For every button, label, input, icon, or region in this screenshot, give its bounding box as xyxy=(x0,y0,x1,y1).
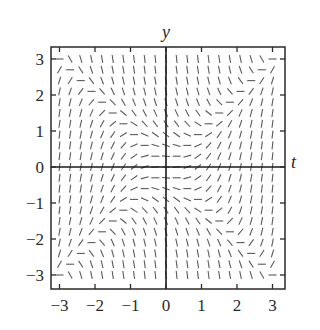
slope-segment xyxy=(218,239,221,246)
slope-segment xyxy=(272,141,273,149)
slope-segment xyxy=(141,177,149,179)
slope-segment xyxy=(80,109,82,117)
slope-segment xyxy=(173,144,181,146)
slope-segment xyxy=(122,239,125,247)
slope-segment xyxy=(133,249,135,257)
slope-segment xyxy=(176,77,177,85)
slope-segment xyxy=(69,239,72,247)
slope-segment xyxy=(142,121,147,127)
slope-segment xyxy=(186,98,189,106)
slope-segment xyxy=(187,249,188,257)
slope-segment xyxy=(261,174,262,182)
slope-segment xyxy=(240,152,242,160)
slope-segment xyxy=(154,228,156,236)
slope-segment xyxy=(154,88,156,96)
slope-segment xyxy=(101,260,103,268)
slope-segment xyxy=(176,249,177,257)
slope-segment xyxy=(121,186,126,192)
slope-segment xyxy=(227,110,233,116)
y-tick-label: −2 xyxy=(26,230,44,249)
slope-segment xyxy=(154,239,156,247)
slope-segment xyxy=(131,208,138,212)
slope-segment xyxy=(111,153,114,160)
slope-segment xyxy=(155,260,156,268)
slope-segment xyxy=(112,77,114,85)
slope-segment xyxy=(133,228,136,235)
slope-segment xyxy=(229,260,231,268)
slope-segment xyxy=(111,239,114,246)
slope-segment xyxy=(141,155,149,157)
slope-segment xyxy=(183,177,191,179)
slope-segment xyxy=(152,132,158,137)
slope-segment xyxy=(176,66,177,74)
slope-segment xyxy=(261,217,263,225)
slope-segment xyxy=(68,272,72,279)
slope-segment xyxy=(229,174,231,182)
slope-segment xyxy=(112,55,113,63)
slope-segment xyxy=(59,185,60,193)
slope-segment xyxy=(197,88,199,96)
slope-segment xyxy=(59,120,60,128)
slope-segment xyxy=(58,77,60,85)
slope-segment xyxy=(228,207,232,214)
slope-segment xyxy=(175,109,178,116)
slope-segment xyxy=(131,154,137,159)
slope-segment xyxy=(272,152,273,160)
slope-segment xyxy=(121,175,126,181)
slope-segment xyxy=(175,217,178,224)
slope-segment xyxy=(229,66,231,74)
slope-segment xyxy=(184,133,191,136)
slope-segment xyxy=(197,239,199,247)
slope-segment xyxy=(101,250,104,257)
slope-segment xyxy=(185,109,189,116)
slope-segment xyxy=(205,132,212,136)
slope-segment xyxy=(271,66,275,73)
slope-segment xyxy=(151,188,159,190)
slope-segment xyxy=(261,185,262,193)
slope-segment xyxy=(240,142,242,150)
slope-segment xyxy=(261,120,262,128)
slope-segment xyxy=(130,187,137,190)
slope-segment xyxy=(110,229,116,235)
slope-segment xyxy=(101,174,103,182)
x-tick-label: 1 xyxy=(197,296,206,315)
slope-segment xyxy=(152,197,158,202)
slope-segment xyxy=(90,206,93,214)
slope-segment xyxy=(195,208,202,212)
slope-segment xyxy=(227,240,232,246)
slope-segment xyxy=(260,250,264,257)
slope-segment xyxy=(217,131,222,138)
slope-segment xyxy=(217,185,221,192)
slope-segment xyxy=(154,98,156,106)
slope-segment xyxy=(89,229,94,235)
slope-segment xyxy=(155,55,156,63)
slope-segment xyxy=(59,228,60,236)
slope-segment xyxy=(110,121,116,126)
slope-segment xyxy=(219,55,220,63)
slope-segment xyxy=(153,121,158,127)
slope-segment xyxy=(134,55,135,63)
slope-segment xyxy=(90,196,92,204)
slope-segment xyxy=(133,77,135,85)
slope-segment xyxy=(187,77,188,85)
slope-segment xyxy=(205,197,212,201)
slope-segment xyxy=(194,144,201,147)
x-tick-label: −3 xyxy=(50,296,68,315)
slope-segment xyxy=(144,88,146,96)
slope-segment xyxy=(120,110,126,115)
slope-segment xyxy=(143,109,147,116)
slope-segment xyxy=(249,239,254,245)
slope-segment xyxy=(238,250,243,256)
slope-segment xyxy=(122,88,125,96)
slope-segment xyxy=(184,198,191,201)
slope-segment xyxy=(206,218,212,223)
y-tick-label: 3 xyxy=(36,50,45,69)
x-tick-label: −1 xyxy=(121,296,139,315)
slope-segment xyxy=(196,218,201,225)
slope-segment xyxy=(69,98,71,106)
slope-segment xyxy=(69,109,71,117)
slope-segment xyxy=(261,109,263,117)
slope-segment xyxy=(272,87,274,95)
slope-segment xyxy=(208,55,209,63)
slope-segment xyxy=(250,217,252,225)
